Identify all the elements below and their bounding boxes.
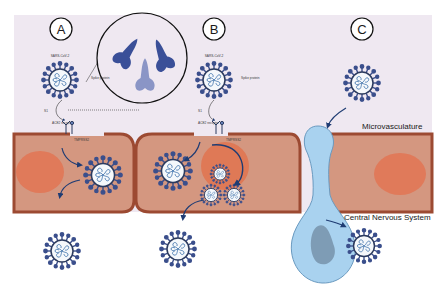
virus-c-cns [347, 229, 382, 264]
annotation-label: C [357, 22, 366, 37]
endosome [201, 142, 249, 190]
nucleus-c [374, 153, 426, 195]
virus-a-released [44, 233, 80, 269]
virus-a-intracellular [84, 156, 122, 194]
annotation-label: Spike protein [241, 76, 260, 80]
virus-b-released [160, 231, 196, 267]
sars-cov-2-infection-diagram: A B C SARS-CoV-2 Spike protein S1 ACE2 r… [0, 0, 445, 296]
annotation-label: SARS-CoV-2 [205, 54, 224, 58]
annotation-label: Spike protein [91, 76, 110, 80]
virus-b-extracellular [196, 62, 232, 98]
cns-label: Central Nervous System [344, 213, 431, 222]
annotation-label: S1 [44, 109, 48, 113]
panel-label-a: A [50, 18, 72, 40]
microvasculature-label: Microvasculature [362, 122, 423, 131]
nucleus-a [16, 151, 64, 193]
virus-a-extracellular [42, 62, 78, 98]
annotation-label: S1 [198, 109, 202, 113]
virus-b-intracellular [154, 152, 192, 190]
panel-label-c: C [351, 18, 373, 40]
annotation-label: TMPRSS2 [74, 138, 89, 142]
annotation-label: TMPRSS2 [226, 138, 241, 142]
annotation-label: A [57, 22, 66, 37]
virus-b-endosome [210, 164, 230, 184]
annotation-label: SARS-CoV-2 [51, 54, 70, 58]
virus-b-progeny-1 [200, 184, 222, 206]
annotation-label: B [210, 22, 219, 37]
virus-b-progeny-2 [223, 184, 245, 206]
virus-c-bloodstream [344, 65, 380, 101]
panel-label-b: B [203, 18, 225, 40]
